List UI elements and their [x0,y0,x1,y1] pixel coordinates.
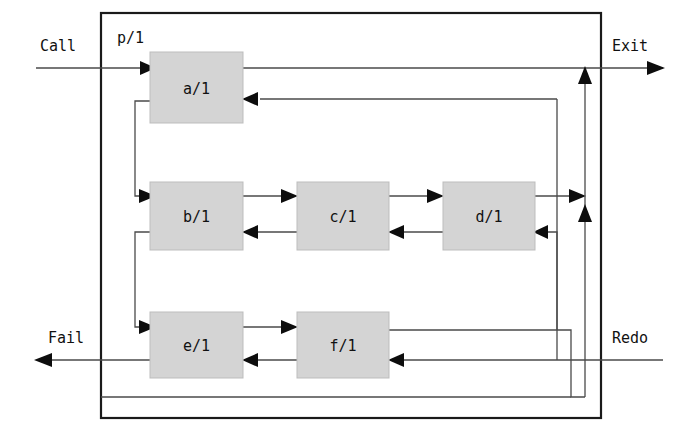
node-b[interactable]: b/1 [150,182,243,250]
frame-label-p1: p/1 [117,29,144,47]
arrowhead-into-d-left [427,189,444,203]
wire-a-fail-to-b [135,101,150,196]
box-model-diagram: a/1 b/1 c/1 d/1 e/1 f/1 p/1 Call Exit Fa… [0,0,699,448]
port-label-fail: Fail [48,329,84,347]
node-a[interactable]: a/1 [150,52,243,123]
node-a-label: a/1 [183,80,210,98]
node-e[interactable]: e/1 [150,312,243,378]
wire-redo-to-d [546,232,557,360]
node-e-label: e/1 [183,337,210,355]
arrowhead-redo-into-f [388,353,404,367]
arrowhead-into-a-right [242,92,258,106]
arrowhead-exit-riser-top [578,66,592,84]
arrowhead-into-c-right [388,225,404,239]
arrowhead-into-e-right [242,353,258,367]
diagram-canvas: a/1 b/1 c/1 d/1 e/1 f/1 p/1 Call Exit Fa… [0,0,699,448]
wire-f-to-bottom-loop [389,330,585,397]
arrowhead-into-f-left [281,320,298,334]
node-f-label: f/1 [329,337,356,355]
port-label-exit: Exit [612,37,648,55]
node-b-label: b/1 [183,208,210,226]
wire-b-fail-to-e [135,232,150,327]
node-f[interactable]: f/1 [297,312,389,378]
arrowhead-exit-out [647,61,665,75]
arrowhead-fail-out [34,353,52,367]
arrowhead-into-c-left [281,189,298,203]
node-c[interactable]: c/1 [297,182,389,250]
node-d-label: d/1 [475,208,502,226]
port-label-redo: Redo [612,329,648,347]
arrowhead-d-exit-joint [569,189,586,203]
node-d[interactable]: d/1 [443,182,535,250]
port-label-call: Call [40,37,76,55]
arrowhead-into-b-right [242,225,258,239]
node-c-label: c/1 [329,208,356,226]
arrowhead-bottom-riser-top [578,204,592,222]
